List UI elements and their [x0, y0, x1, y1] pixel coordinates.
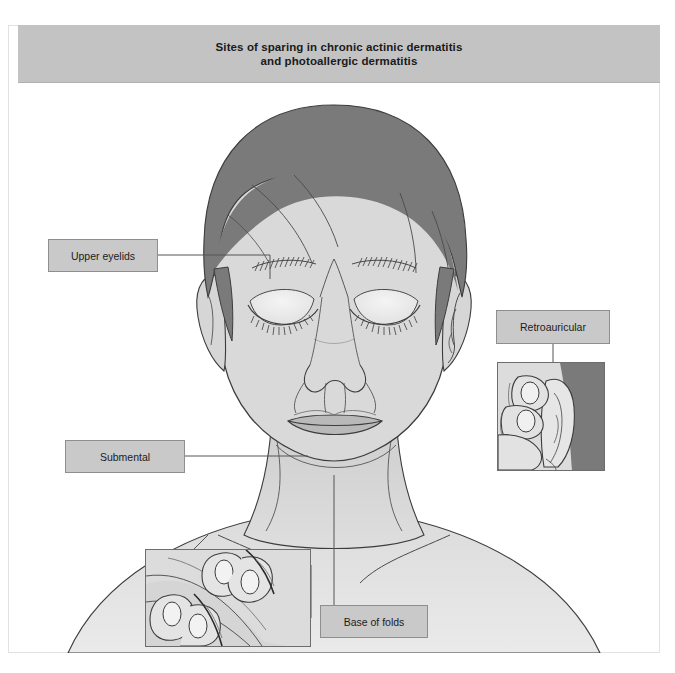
title-line-2: and photoallergic dermatitis — [261, 55, 418, 67]
retroauricular-inset — [497, 362, 605, 471]
label-base-of-folds-text: Base of folds — [344, 616, 405, 628]
label-base-of-folds[interactable]: Base of folds — [320, 605, 428, 638]
figure-panel: Sites of sparing in chronic actinic derm… — [0, 0, 675, 673]
figure-title-bar: Sites of sparing in chronic actinic derm… — [18, 25, 660, 83]
label-retroauricular-text: Retroauricular — [520, 321, 586, 333]
page-title: Sites of sparing in chronic actinic derm… — [216, 40, 463, 68]
title-line-1: Sites of sparing in chronic actinic derm… — [216, 41, 463, 53]
base-of-folds-inset — [145, 549, 311, 647]
label-retroauricular[interactable]: Retroauricular — [496, 310, 610, 344]
label-upper-eyelids-text: Upper eyelids — [71, 250, 135, 262]
label-submental[interactable]: Submental — [65, 440, 185, 473]
label-submental-text: Submental — [100, 451, 150, 463]
label-upper-eyelids[interactable]: Upper eyelids — [48, 239, 158, 272]
